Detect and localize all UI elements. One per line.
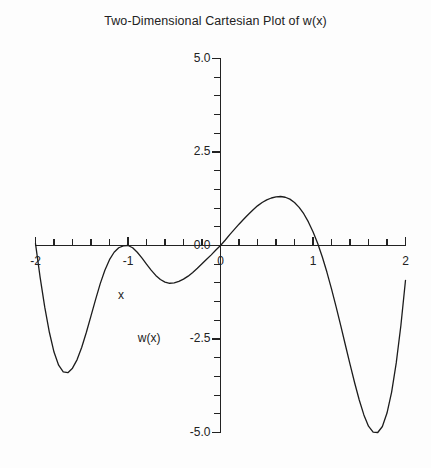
plot-canvas [0, 0, 431, 468]
y-axis-label: w(x) [113, 331, 161, 345]
x-tick-label: -1 [116, 254, 140, 268]
y-tick-label: -5.0 [161, 425, 211, 439]
y-tick-label: 2.5 [161, 144, 211, 158]
x-tick-label: 1 [301, 254, 325, 268]
y-tick-label: 0.0 [161, 238, 211, 252]
y-tick-label: 5.0 [161, 51, 211, 65]
x-tick-label: 0 [209, 254, 233, 268]
x-axis-label: x [118, 288, 124, 302]
y-tick-label: -2.5 [161, 331, 211, 345]
x-tick-label: -2 [24, 254, 48, 268]
chart-container: Two-Dimensional Cartesian Plot of w(x) -… [0, 0, 431, 468]
x-tick-label: 2 [394, 254, 418, 268]
